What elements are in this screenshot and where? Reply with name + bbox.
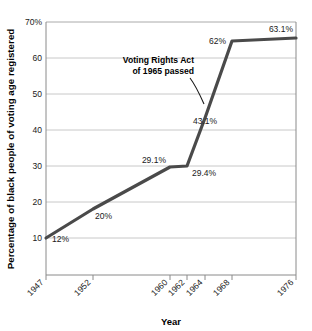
y-tick-label: 60: [33, 53, 43, 63]
annotation-line-2: of 1965 passed: [132, 66, 194, 76]
x-tick-label: 1952: [72, 277, 93, 298]
data-label-1960: 29.1%: [142, 155, 167, 165]
x-axis-title: Year: [161, 316, 181, 327]
y-axis-ticks: 70% 60 50 40 30 20 10: [25, 17, 42, 243]
y-tick-label: 50: [33, 89, 43, 99]
y-tick-label: 10: [33, 233, 43, 243]
y-tick-label: 40: [33, 125, 43, 135]
y-tick-label: 70%: [25, 17, 42, 27]
data-label-1952: 20%: [95, 211, 112, 221]
y-axis-title: Percentage of black people of voting age…: [5, 29, 16, 270]
x-tick-label: 1964: [184, 277, 205, 298]
data-label-1947: 12%: [52, 234, 69, 244]
voting-registration-line-chart: 70% 60 50 40 30 20 10 1947 1952 1960 196…: [0, 0, 312, 331]
x-tick-label: 1947: [25, 277, 46, 298]
x-axis-tick-labels: 1947 1952 1960 1962 1964 1968 1976: [25, 277, 296, 298]
x-tick-label: 1960: [149, 277, 170, 298]
data-label-1964: 43.1%: [193, 116, 218, 126]
x-tick-label: 1976: [275, 277, 296, 298]
x-tick-label: 1962: [166, 277, 187, 298]
y-tick-label: 20: [33, 197, 43, 207]
data-label-1976: 63.1%: [269, 24, 294, 34]
annotation-line-1: Voting Rights Act: [123, 55, 194, 65]
data-label-1968: 62%: [209, 36, 226, 46]
x-tick-label: 1968: [211, 277, 232, 298]
y-tick-label: 30: [33, 161, 43, 171]
data-label-1962: 29.4%: [192, 168, 217, 178]
